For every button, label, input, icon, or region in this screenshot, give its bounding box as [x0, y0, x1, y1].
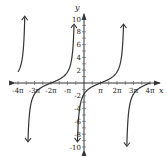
y-tick-label: 8 [77, 28, 81, 36]
axes [15, 14, 160, 150]
y-tick-label: -10 [70, 144, 81, 152]
x-tick-label: -4π [12, 87, 24, 95]
y-tick-label: 2 [77, 67, 81, 75]
x-tick-label: 2π [112, 87, 121, 95]
y-tick-label: -2 [74, 92, 81, 100]
y-tick-label: 6 [77, 41, 82, 49]
x-tick-label: 4π [145, 87, 154, 95]
tangent-graph: -4π-3π-2π-ππ2π3π4π108642-2-4-6-8-10 x y [0, 0, 167, 159]
x-tick-label: -2π [45, 87, 57, 95]
x-tick-label: π [98, 87, 103, 95]
y-tick-label: 10 [72, 16, 81, 24]
x-tick-label: -π [64, 87, 71, 95]
y-axis-label: y [74, 3, 80, 12]
y-tick-label: 4 [77, 54, 82, 62]
x-axis-label: x [159, 86, 164, 95]
left-branch [18, 17, 25, 72]
